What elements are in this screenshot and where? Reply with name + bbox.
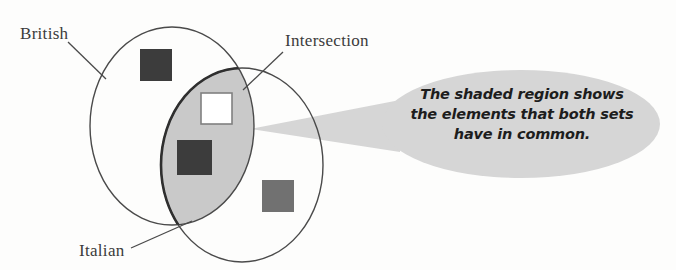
intersection-label: Intersection bbox=[285, 31, 369, 51]
venn-diagram-canvas: British Italian Intersection The shaded … bbox=[0, 0, 676, 270]
element-square-intersection-dark bbox=[177, 140, 212, 175]
leader-line-british bbox=[68, 42, 106, 79]
leader-line-italian bbox=[131, 221, 192, 248]
callout-text-line-1: The shaded region shows bbox=[400, 84, 644, 104]
element-square-british-only bbox=[140, 49, 172, 81]
element-square-intersection-white bbox=[201, 93, 232, 124]
callout-text-line-2: the elements that both sets bbox=[400, 104, 644, 124]
element-square-italian-only bbox=[262, 180, 294, 212]
set-label-british: British bbox=[20, 24, 68, 44]
callout-text: The shaded region shows the elements tha… bbox=[400, 84, 644, 144]
set-label-italian: Italian bbox=[79, 241, 125, 261]
leader-line-intersection bbox=[243, 52, 283, 90]
callout-text-line-3: have in common. bbox=[400, 124, 644, 144]
callout-tail bbox=[250, 100, 400, 152]
